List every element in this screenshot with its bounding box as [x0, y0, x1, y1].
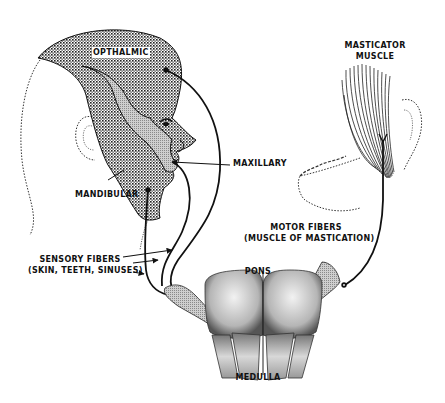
label-motor-line1: MOTOR FIBERS: [244, 222, 368, 233]
label-sensory-line2: (SKIN, TEETH, SINUSES): [28, 265, 132, 276]
label-maxillary: MAXILLARY: [233, 158, 287, 169]
label-medulla: MEDULLA: [228, 372, 288, 383]
jaw-outline: [298, 158, 360, 211]
label-masticator-line1: MASTICATOR: [342, 40, 408, 51]
label-pons: PONS: [236, 266, 280, 277]
label-masticator-line2: MUSCLE: [342, 51, 408, 62]
label-ophthalmic: OPTHALMIC: [92, 47, 150, 58]
trigeminal-nerve-diagram: OPTHALMIC MAXILLARY MANDIBULAR MASTICATO…: [0, 0, 445, 403]
label-sensory-line1: SENSORY FIBERS: [28, 254, 132, 265]
maxillary-pointer: [172, 162, 230, 165]
label-mandibular: MANDIBULAR: [75, 189, 139, 200]
label-motor-line2: (MUSCLE OF MASTICATION): [244, 233, 368, 244]
masticator-muscle: [342, 64, 394, 178]
